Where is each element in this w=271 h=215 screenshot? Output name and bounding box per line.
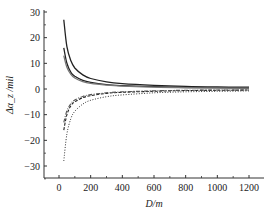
y-axis-label: Δα_z /mil [4,76,15,115]
series-line-2 [64,48,249,88]
series-line-6 [64,91,249,161]
x-tick-label: 1000 [207,182,227,193]
x-tick-label: 800 [178,182,193,193]
chart: −30−20−100102030020040060080010001200 Δα… [0,0,271,215]
y-tick-label: −30 [24,161,40,172]
x-axis-label: D/m [144,198,162,209]
x-tick-label: 0 [57,182,62,193]
x-tick-label: 600 [147,182,162,193]
y-tick-label: 20 [30,32,40,43]
series-line-3 [64,56,249,89]
axes: −30−20−100102030020040060080010001200 [24,7,264,194]
series-line-5 [64,90,249,123]
x-tick-label: 400 [115,182,130,193]
plot-lines [64,20,249,161]
y-tick-label: −10 [24,109,40,120]
y-tick-label: 30 [30,7,40,18]
y-tick-label: −20 [24,135,40,146]
y-tick-label: 10 [30,58,40,69]
series-line-4 [64,90,249,130]
series-line-1 [64,20,249,88]
x-tick-label: 200 [83,182,98,193]
y-tick-label: 0 [35,84,40,95]
x-tick-label: 1200 [239,182,259,193]
